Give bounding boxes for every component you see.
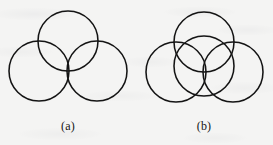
circle-arrangement-diagram <box>0 0 273 145</box>
panel-a-circles <box>9 11 127 101</box>
panel-b-circles <box>146 12 263 102</box>
panel-b-caption: (b) <box>184 119 224 134</box>
figure-plate: (a) (b) <box>0 0 273 145</box>
panel-a-caption: (a) <box>48 119 88 134</box>
